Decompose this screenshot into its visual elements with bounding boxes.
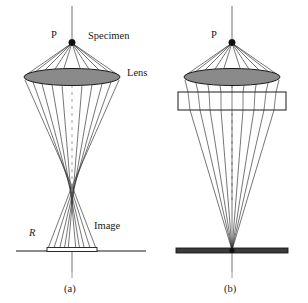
label-lens: Lens <box>127 68 147 79</box>
optics-figure: P Specimen Lens R Image P (a) (b) <box>0 0 308 303</box>
label-point-p-b: P <box>211 30 217 41</box>
ray-bundle-lower-b <box>190 110 274 250</box>
caption-panel-a: (a) <box>64 283 76 294</box>
label-point-p-a: P <box>51 30 57 41</box>
lens-element-b <box>184 69 280 86</box>
label-specimen: Specimen <box>88 31 129 42</box>
specimen-point-b <box>229 39 235 45</box>
figure-canvas <box>0 0 308 303</box>
focus-point-b <box>229 248 234 253</box>
disc-of-least-confusion-a <box>47 248 97 252</box>
label-image: Image <box>94 221 120 232</box>
specimen-point-a <box>69 39 75 45</box>
label-radius-r: R <box>29 228 35 239</box>
caption-panel-b: (b) <box>224 283 236 294</box>
panel-b <box>176 6 288 278</box>
lens-element-a <box>24 69 120 86</box>
panel-a <box>16 6 146 278</box>
